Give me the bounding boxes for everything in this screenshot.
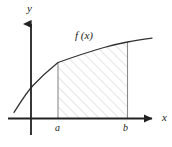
shaded-area-region <box>50 30 140 130</box>
integral-area-diagram <box>0 0 172 147</box>
figure-container: y x a b f (x) <box>0 0 172 147</box>
y-axis-label: y <box>27 3 32 14</box>
lower-limit-label-a: a <box>55 123 60 133</box>
upper-limit-label-b: b <box>123 123 128 133</box>
x-axis-label: x <box>162 112 167 123</box>
function-label-fx: f (x) <box>75 30 93 41</box>
